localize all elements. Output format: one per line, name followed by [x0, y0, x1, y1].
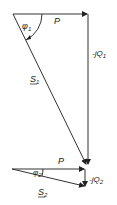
s2-label: S2 — [38, 187, 48, 198]
q1-label: -jQ1 — [92, 49, 106, 59]
phi1-arc-arrowhead — [26, 35, 31, 40]
power-triangle-diagram: φ1 P -jQ1 S1 P φ2 -jQ2 S2 — [0, 0, 117, 205]
p2-label: P — [58, 156, 64, 166]
q2-label: -jQ2 — [89, 175, 104, 185]
triangle-1: φ1 P -jQ1 S1 — [13, 14, 106, 164]
p1-label: P — [54, 16, 60, 26]
s1-arrow — [13, 14, 86, 164]
triangle-2: P φ2 -jQ2 S2 — [12, 156, 104, 198]
s2-arrow — [12, 169, 84, 186]
phi1-label: φ1 — [22, 21, 31, 32]
s1-label: S1 — [30, 74, 39, 85]
phi2-arc — [42, 169, 43, 176]
